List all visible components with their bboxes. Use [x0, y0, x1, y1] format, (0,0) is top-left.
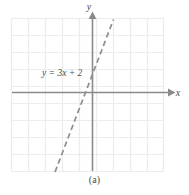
y-axis-arrowhead: [89, 12, 97, 20]
equation-label: y = 3x + 2: [41, 68, 83, 78]
graph-svg: x y y = 3x + 2: [0, 0, 189, 195]
figure-container: x y y = 3x + 2: [0, 0, 189, 195]
y-axis-label: y: [86, 1, 92, 12]
x-axis-label: x: [175, 87, 181, 98]
plot-line-equation: [55, 20, 114, 173]
figure-caption: (a): [0, 174, 189, 185]
x-axis: [12, 89, 176, 97]
x-axis-arrowhead: [168, 89, 176, 97]
grid-lines: [12, 19, 164, 172]
